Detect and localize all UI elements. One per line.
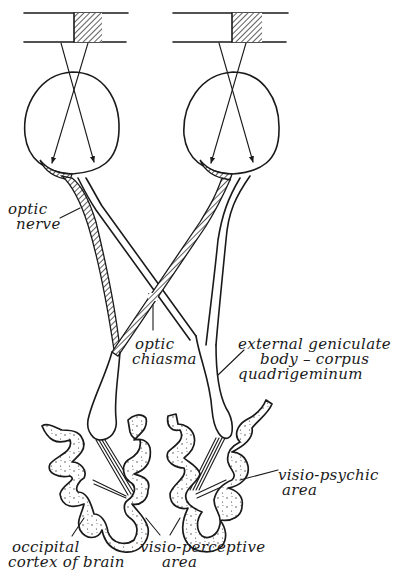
right-object-slit bbox=[173, 13, 288, 42]
optic-chiasma-label: optic chiasma bbox=[132, 337, 197, 367]
left-geniculate-body bbox=[88, 352, 120, 440]
optic-nerve-leader bbox=[60, 208, 80, 218]
visio-perceptive-leader-right bbox=[170, 518, 180, 535]
occipital-cortex-label-line2: cortex of brain bbox=[8, 555, 125, 570]
left-object-slit bbox=[24, 13, 128, 42]
external-geniculate-label: external geniculate body – corpus quadri… bbox=[238, 337, 391, 382]
external-geniculate-label-line3: quadrigeminum bbox=[238, 367, 391, 382]
left-eyeball bbox=[25, 43, 119, 180]
right-optic-nerve bbox=[112, 176, 250, 356]
occipital-cortex-label: occipital cortex of brain bbox=[8, 540, 125, 570]
visio-psychic-label-line2: area bbox=[278, 483, 379, 498]
optic-nerve-label-line2: nerve bbox=[8, 217, 61, 232]
optic-nerve-label: optic nerve bbox=[8, 202, 61, 232]
visio-perceptive-label-line2: area bbox=[140, 555, 265, 570]
right-geniculate-body bbox=[196, 336, 232, 438]
visio-psychic-label: visio-psychic area bbox=[278, 468, 379, 498]
optic-chiasma-label-line2: chiasma bbox=[132, 352, 197, 367]
left-occipital-cortex bbox=[42, 415, 150, 552]
right-eyeball bbox=[184, 43, 279, 180]
optic-chiasma bbox=[148, 293, 158, 330]
visio-perceptive-label-line1: visio-perceptive bbox=[140, 540, 265, 555]
visio-perceptive-label: visio-perceptive area bbox=[140, 540, 265, 570]
